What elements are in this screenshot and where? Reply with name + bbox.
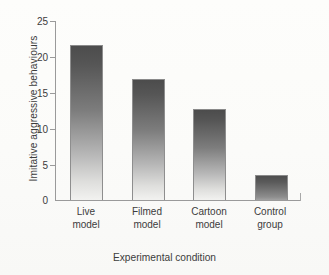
bar-cartoon-model — [193, 109, 226, 200]
x-category-line-1: Cartoon — [178, 206, 240, 219]
chart-page: Imitative aggressive behaviours 25 20 15… — [0, 0, 329, 275]
x-category-line-2: group — [239, 219, 301, 232]
bar-filmed-model — [132, 79, 165, 200]
bar-live-model — [70, 45, 103, 200]
x-category-label-cartoon-model: Cartoon model — [178, 206, 240, 231]
x-category-label-live-model: Live model — [55, 206, 117, 231]
x-category-line-1: Live — [55, 206, 117, 219]
x-axis-title: Experimental condition — [0, 252, 329, 263]
x-category-line-2: model — [55, 219, 117, 232]
bar-group — [0, 0, 329, 275]
bar-control-group — [255, 175, 288, 200]
x-category-line-2: model — [116, 219, 178, 232]
plot-area: Imitative aggressive behaviours 25 20 15… — [0, 0, 329, 275]
x-category-label-filmed-model: Filmed model — [116, 206, 178, 231]
x-category-line-1: Control — [239, 206, 301, 219]
x-category-line-2: model — [178, 219, 240, 232]
x-category-line-1: Filmed — [116, 206, 178, 219]
x-category-label-control-group: Control group — [239, 206, 301, 231]
